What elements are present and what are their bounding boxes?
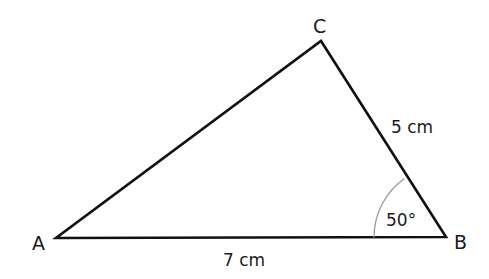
side-label-ab: 7 cm bbox=[223, 250, 265, 270]
vertex-label-c: C bbox=[313, 15, 326, 37]
triangle-diagram: A B C 7 cm 5 cm 50° bbox=[0, 0, 489, 279]
side-label-bc: 5 cm bbox=[391, 117, 433, 137]
vertex-label-a: A bbox=[32, 232, 45, 254]
vertex-label-b: B bbox=[454, 231, 467, 253]
angle-label-b: 50° bbox=[386, 210, 416, 230]
triangle-abc bbox=[56, 41, 446, 238]
